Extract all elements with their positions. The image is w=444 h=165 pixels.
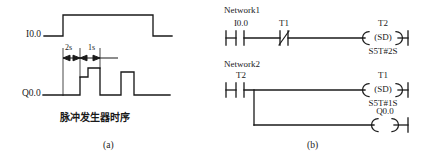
dimension-label-2s: 2s [65,44,72,52]
dim-arrow-right [93,55,100,61]
ladder-logic-svg [222,0,444,165]
coil-label-t1: T1 [374,71,392,80]
contact-label-t1: T1 [274,19,294,28]
coil-label-q00: Q0.0 [373,107,397,116]
subfigure-label-b: (b) [307,141,318,151]
coil-type-sd-2: (SD) [370,85,396,94]
waveform-i00 [44,15,172,36]
contact-label-t2: T2 [232,71,250,80]
coil-label-t2: T2 [372,19,394,28]
subfigure-label-a: (a) [103,141,114,151]
waveform-q00 [43,68,170,95]
timing-diagram-caption: 脉冲发生器时序 [60,113,130,123]
dim-arrow-mid-b [80,55,87,61]
ladder-diagram-panel: Network1 I0.0 T1 T2 (SD) S5T#2S Network2… [222,0,444,165]
contact-label-i00: I0.0 [230,19,252,28]
coil-preset-t2: S5T#2S [360,47,406,56]
network-title-1: Network1 [224,6,260,15]
timing-diagram-panel: I0.0 Q0.0 2s 1s 脉冲发生器时序 (a) [0,0,222,165]
coil-type-sd-1: (SD) [370,33,396,42]
network-title-2: Network2 [224,60,260,69]
dim-arrow-left [63,55,70,61]
signal-label-q00: Q0.0 [22,89,41,99]
signal-label-i00: I0.0 [26,30,41,40]
dimension-label-1s: 1s [88,44,95,52]
figure-root: I0.0 Q0.0 2s 1s 脉冲发生器时序 (a) [0,0,444,165]
